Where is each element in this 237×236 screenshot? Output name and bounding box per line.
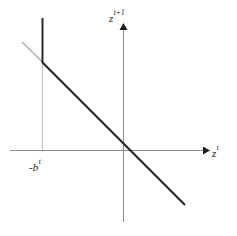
x-axis-label: zt	[212, 144, 218, 160]
x-tick-label-superscript: t	[39, 157, 41, 166]
y-axis-label-superscript: t+1	[114, 8, 125, 17]
x-tick-label-minus-b: -bt	[29, 158, 40, 174]
policy-line-inactive	[22, 42, 43, 62]
x-axis-label-base: z	[212, 147, 216, 159]
policy-line-active	[42, 62, 185, 205]
x-axis-arrowhead	[203, 147, 210, 155]
x-tick-label-base: -b	[29, 161, 38, 173]
figure-canvas: zt+1 zt -bt	[0, 0, 237, 236]
diagram-svg	[0, 0, 237, 236]
y-axis-label: zt+1	[109, 9, 124, 25]
y-axis-label-base: z	[109, 12, 113, 24]
x-axis-label-superscript: t	[217, 143, 219, 152]
